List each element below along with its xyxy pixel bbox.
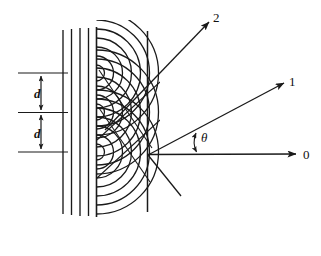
ray-1-label: 1 — [289, 74, 296, 89]
ray-0 — [148, 154, 296, 155]
ray-0-label: 0 — [303, 147, 310, 162]
plane-wavefront-group — [63, 28, 89, 216]
theta-label: θ — [201, 130, 208, 145]
ray-2-lower-segment — [148, 155, 181, 196]
ray-2 — [105, 22, 209, 130]
ray-2-label: 2 — [213, 10, 220, 25]
spacing-dimension-group — [18, 73, 68, 152]
diffraction-diagram: 2 1 0 θ d d — [0, 0, 321, 256]
ray-1 — [148, 83, 284, 155]
figure-root: 2 1 0 θ d d — [0, 0, 321, 256]
theta-angle-marker — [194, 133, 196, 152]
d-label-lower: d — [34, 126, 41, 141]
d-label-upper: d — [34, 86, 41, 101]
theta-arc — [194, 133, 196, 152]
wavelet-arc — [97, 68, 141, 156]
